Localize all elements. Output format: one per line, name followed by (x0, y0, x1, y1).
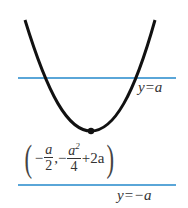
y-tail: +2a (82, 150, 105, 167)
x-denominator: 2 (45, 158, 52, 173)
y-fraction: a2 4 (67, 142, 81, 174)
vertex-label: ( − a 2 , − a2 4 +2a ) (22, 138, 117, 178)
parabola-diagram: y=a y=−a ( − a 2 , − a2 4 +2a ) (0, 0, 188, 208)
open-paren: ( (25, 139, 33, 177)
x-fraction: a 2 (44, 143, 53, 173)
x-numerator: a (44, 143, 53, 158)
minus-sign-2: − (58, 150, 66, 167)
label-lower-line: y=−a (117, 187, 151, 204)
parabola-curve (25, 20, 155, 131)
y-num-exponent: 2 (75, 141, 80, 151)
close-paren: ) (107, 139, 115, 177)
minus-sign: − (35, 150, 43, 167)
vertex-point (88, 128, 94, 134)
y-denominator: 4 (71, 159, 78, 174)
y-numerator: a2 (67, 142, 81, 159)
label-upper-line: y=a (138, 79, 162, 96)
